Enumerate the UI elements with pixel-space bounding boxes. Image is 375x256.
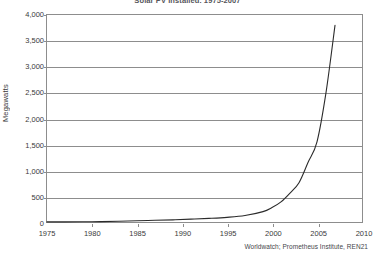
x-tick-label: 1985 — [118, 230, 158, 238]
x-tick-mark — [138, 224, 139, 227]
x-tick-label: 2010 — [344, 230, 375, 238]
x-tick-mark — [92, 224, 93, 227]
y-tick-label: 2,000 — [4, 116, 44, 124]
y-tick-label: 1,500 — [4, 142, 44, 150]
x-tick-mark — [273, 224, 274, 227]
chart-title: Solar PV Installed, 1975-2007 — [0, 0, 375, 3]
x-tick-label: 2005 — [299, 230, 339, 238]
y-tick-label: 4,000 — [4, 11, 44, 19]
x-tick-mark — [228, 224, 229, 227]
x-tick-label: 1975 — [27, 230, 67, 238]
chart-figure: Solar PV Installed, 1975-2007 Megawatts … — [0, 0, 375, 256]
x-tick-mark — [183, 224, 184, 227]
x-tick-mark — [319, 224, 320, 227]
x-tick-label: 1990 — [163, 230, 203, 238]
y-tick-label: 0 — [4, 220, 44, 228]
x-tick-label: 2000 — [253, 230, 293, 238]
y-tick-label: 1,000 — [4, 168, 44, 176]
data-series-line — [47, 15, 362, 222]
y-tick-label: 3,000 — [4, 63, 44, 71]
plot-area: 05001,0001,5002,0002,5003,0003,5004,000 … — [46, 14, 363, 223]
x-tick-label: 1980 — [72, 230, 112, 238]
y-tick-label: 3,500 — [4, 37, 44, 45]
y-tick-label: 2,500 — [4, 89, 44, 97]
y-tick-label: 500 — [4, 194, 44, 202]
x-tick-label: 1995 — [208, 230, 248, 238]
source-note: Worldwatch; Prometheus Institute, REN21 — [0, 243, 368, 250]
